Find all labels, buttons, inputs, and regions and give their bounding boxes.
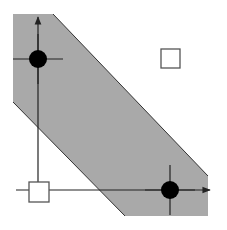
filled-circle-marker: [161, 181, 179, 199]
hollow-square-marker-2: [161, 49, 180, 68]
diagram-canvas: [0, 0, 227, 230]
band-diagram: [0, 0, 227, 230]
filled-circle-marker: [29, 50, 47, 68]
hollow-square-marker-1: [29, 182, 49, 202]
